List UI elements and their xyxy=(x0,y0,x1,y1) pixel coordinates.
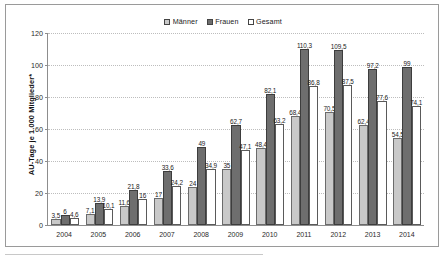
legend-item-frauen: Frauen xyxy=(207,17,239,26)
bar[interactable]: 110,3 xyxy=(300,49,309,225)
bar-group: 3562,747,1 xyxy=(219,33,253,225)
bar-slot: 35 xyxy=(222,33,231,225)
legend-item-gesamt: Gesamt xyxy=(248,17,282,26)
y-tick-label: 80 xyxy=(35,93,43,102)
bar[interactable]: 99 xyxy=(402,67,411,225)
x-tick-label: 2012 xyxy=(321,228,355,242)
x-tick-label: 2005 xyxy=(81,228,115,242)
bar[interactable]: 24 xyxy=(188,187,197,225)
bar[interactable]: 109,5 xyxy=(334,50,343,225)
y-tick-label: 120 xyxy=(31,29,43,38)
bar-slot: 34,9 xyxy=(206,33,215,225)
bar-slot: 86,8 xyxy=(309,33,318,225)
bar-value-label: 7,1 xyxy=(86,207,95,214)
legend-label-frauen: Frauen xyxy=(215,17,238,26)
bar[interactable]: 63,2 xyxy=(275,124,284,225)
bar-slot: 17 xyxy=(154,33,163,225)
bar[interactable]: 49 xyxy=(197,147,206,225)
bar-slot: 110,3 xyxy=(300,33,309,225)
bar-value-label: 47,1 xyxy=(239,143,251,150)
bar[interactable]: 16 xyxy=(138,199,147,225)
bar-group: 244934,9 xyxy=(185,33,219,225)
bar-value-label: 87,5 xyxy=(342,78,354,85)
bar[interactable]: 97,2 xyxy=(368,69,377,225)
bar[interactable]: 74,1 xyxy=(412,106,421,225)
bar[interactable]: 70,5 xyxy=(325,112,334,225)
x-tick-label: 2006 xyxy=(116,228,150,242)
bar-value-label: 35 xyxy=(223,162,230,169)
bar[interactable]: 77,6 xyxy=(377,101,386,225)
x-tick-label: 2007 xyxy=(150,228,184,242)
bar[interactable]: 34,9 xyxy=(206,169,215,225)
bar[interactable]: 62,7 xyxy=(231,125,240,225)
x-tick-label: 2010 xyxy=(253,228,287,242)
plot-area: 020406080100120 3,564,67,113,910,111,621… xyxy=(47,33,424,226)
bar-slot: 11,6 xyxy=(120,33,129,225)
bar[interactable]: 6 xyxy=(61,215,70,225)
bar-group: 7,113,910,1 xyxy=(82,33,116,225)
bar[interactable]: 24,2 xyxy=(172,186,181,225)
bar-value-label: 74,1 xyxy=(410,99,422,106)
bar-groups: 3,564,67,113,910,111,621,8161733,624,224… xyxy=(48,33,424,225)
bar-group: 70,5109,587,5 xyxy=(322,33,356,225)
bar[interactable]: 21,8 xyxy=(129,190,138,225)
y-tick-label: 100 xyxy=(31,61,43,70)
bar-value-label: 24 xyxy=(189,180,196,187)
bar[interactable]: 11,6 xyxy=(120,206,129,225)
x-tick-label: 2011 xyxy=(287,228,321,242)
x-tick-label: 2013 xyxy=(355,228,389,242)
bar[interactable]: 54,5 xyxy=(393,138,402,225)
bar-value-label: 49 xyxy=(198,140,205,147)
legend-item-maenner: Männer xyxy=(164,17,197,26)
bar[interactable]: 3,5 xyxy=(51,219,60,225)
bar-slot: 77,6 xyxy=(377,33,386,225)
bar-value-label: 24,2 xyxy=(171,179,183,186)
bar-slot: 48,4 xyxy=(256,33,265,225)
bar[interactable]: 35 xyxy=(222,169,231,225)
chart-legend: Männer Frauen Gesamt xyxy=(0,17,446,26)
bar-value-label: 16 xyxy=(139,192,146,199)
y-tick-label: 40 xyxy=(35,157,43,166)
bar[interactable]: 4,6 xyxy=(70,218,79,225)
bar-slot: 49 xyxy=(197,33,206,225)
bar-value-label: 63,2 xyxy=(273,117,285,124)
y-tick-label: 60 xyxy=(35,125,43,134)
legend-swatch-frauen xyxy=(207,19,213,25)
bar-slot: 3,5 xyxy=(51,33,60,225)
bar[interactable]: 47,1 xyxy=(241,150,250,225)
x-tick-label: 2008 xyxy=(184,228,218,242)
bar-slot: 82,1 xyxy=(266,33,275,225)
chart-page: Männer Frauen Gesamt AU-Tage je 1.000 Mi… xyxy=(0,0,446,266)
bar-slot: 54,5 xyxy=(393,33,402,225)
legend-label-gesamt: Gesamt xyxy=(256,17,282,26)
bar-slot: 13,9 xyxy=(95,33,104,225)
y-tick-mark xyxy=(45,225,48,226)
legend-label-maenner: Männer xyxy=(173,17,198,26)
y-tick-label: 20 xyxy=(35,189,43,198)
bar[interactable]: 68,4 xyxy=(291,116,300,225)
bar-group: 1733,624,2 xyxy=(151,33,185,225)
bar-slot: 33,6 xyxy=(163,33,172,225)
legend-swatch-gesamt xyxy=(248,19,254,25)
bar-group: 62,497,277,6 xyxy=(356,33,390,225)
bar[interactable]: 17 xyxy=(154,198,163,225)
bar-group: 68,4110,386,8 xyxy=(287,33,321,225)
bar-slot: 70,5 xyxy=(325,33,334,225)
bar[interactable]: 62,4 xyxy=(359,125,368,225)
bar[interactable]: 48,4 xyxy=(256,148,265,225)
bar[interactable]: 86,8 xyxy=(309,86,318,225)
bar-group: 11,621,816 xyxy=(116,33,150,225)
bar[interactable]: 10,1 xyxy=(104,209,113,225)
bar-value-label: 86,8 xyxy=(308,79,320,86)
x-tick-label: 2004 xyxy=(47,228,81,242)
bar-slot: 4,6 xyxy=(70,33,79,225)
y-tick-label: 0 xyxy=(39,221,43,230)
bar[interactable]: 82,1 xyxy=(266,94,275,225)
bar-slot: 16 xyxy=(138,33,147,225)
bar[interactable]: 7,1 xyxy=(86,214,95,225)
bar[interactable]: 87,5 xyxy=(343,85,352,225)
bar-slot: 6 xyxy=(61,33,70,225)
bar-slot: 62,7 xyxy=(231,33,240,225)
bar-slot: 74,1 xyxy=(412,33,421,225)
bar-slot: 10,1 xyxy=(104,33,113,225)
